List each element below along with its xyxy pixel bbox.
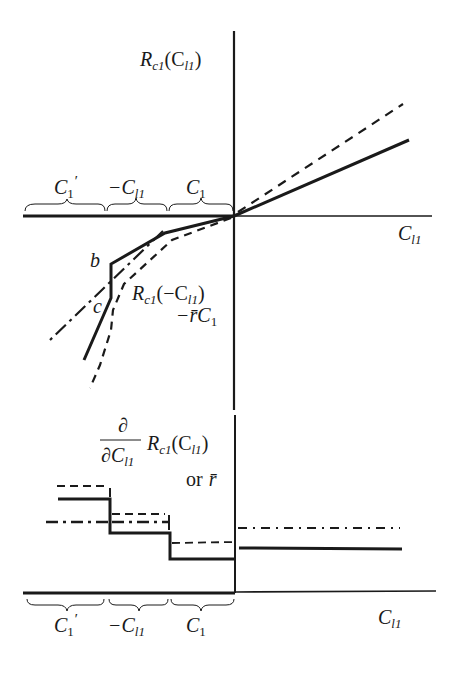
interval-label-c1-bottom: C1 — [186, 614, 206, 639]
dashed-curve-right — [238, 104, 403, 212]
bottom-x-axis-right — [235, 591, 436, 592]
solid-curve-right — [234, 140, 409, 216]
interval-label-minus-cl1-top: −Cl1 — [108, 176, 145, 201]
diagram-canvas: Rc1(Cl1) Cl1 C1′ −Cl1 C1 b c — [0, 0, 462, 673]
point-label-b: b — [90, 249, 100, 271]
bottom-x-axis-label: Cl1 — [378, 606, 401, 631]
or-rbar-label: orr̄ — [186, 468, 217, 490]
top-y-axis-label: Rc1(Cl1) — [139, 48, 201, 73]
dash-dot-line — [50, 231, 163, 340]
interval-label-c1-prime-top: C1′ — [54, 173, 78, 201]
annotation-minus-rbar-c1: −r̄C1 — [176, 304, 217, 329]
interval-label-c1-prime-bottom: C1′ — [54, 611, 78, 639]
partial-numerator: ∂ — [118, 414, 128, 436]
brace-c1-prime-bottom — [27, 599, 104, 611]
dashed-step-3 — [172, 542, 234, 543]
top-panel: Rc1(Cl1) Cl1 C1′ −Cl1 C1 b c — [23, 31, 432, 410]
interval-label-minus-cl1-bottom: −Cl1 — [108, 614, 145, 639]
top-x-axis-label: Cl1 — [398, 222, 421, 247]
point-label-c: c — [93, 295, 102, 317]
brace-c1-prime-top — [25, 199, 105, 211]
brace-minus-cl1-bottom — [109, 599, 168, 611]
interval-label-c1-top: C1 — [186, 176, 206, 201]
solid-step-left — [58, 499, 235, 559]
partial-denominator: ∂Cl1 — [101, 444, 134, 469]
solid-step-right — [239, 548, 402, 549]
bottom-panel: ∂ ∂Cl1 Rc1(Cl1) orr̄ C1′ — [23, 414, 436, 639]
bottom-y-axis-label: Rc1(Cl1) — [146, 432, 208, 457]
brace-c1-bottom — [171, 599, 234, 611]
